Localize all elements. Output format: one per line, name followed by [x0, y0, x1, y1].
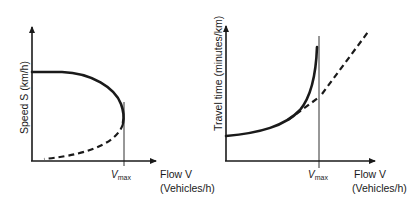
vmax-sub: max [118, 174, 131, 181]
tt-x-axis-label: Flow V [354, 168, 386, 180]
tt-solid-curve [226, 47, 317, 136]
vmax-main: V [308, 169, 315, 180]
tt-y-axis-label: Travel time (minutes/km) [212, 16, 224, 131]
speed-solid-curve [32, 72, 124, 123]
traveltime-flow-diagram [225, 26, 375, 168]
tt-vmax-label: Vmax [308, 169, 328, 181]
speed-vmax-label: Vmax [111, 169, 131, 181]
tt-dashed-line [288, 32, 368, 120]
vmax-main: V [111, 169, 118, 180]
speed-flow-diagram [31, 27, 156, 166]
vmax-sub: max [315, 174, 328, 181]
speed-x-axis-units: (Vehicles/h) [160, 182, 215, 194]
speed-y-axis-label: Speed S (km/h) [18, 61, 30, 134]
speed-x-axis-label: Flow V [160, 168, 192, 180]
speed-dashed-curve [44, 124, 123, 159]
tt-x-axis-units: (Vehicles/h) [352, 182, 407, 194]
